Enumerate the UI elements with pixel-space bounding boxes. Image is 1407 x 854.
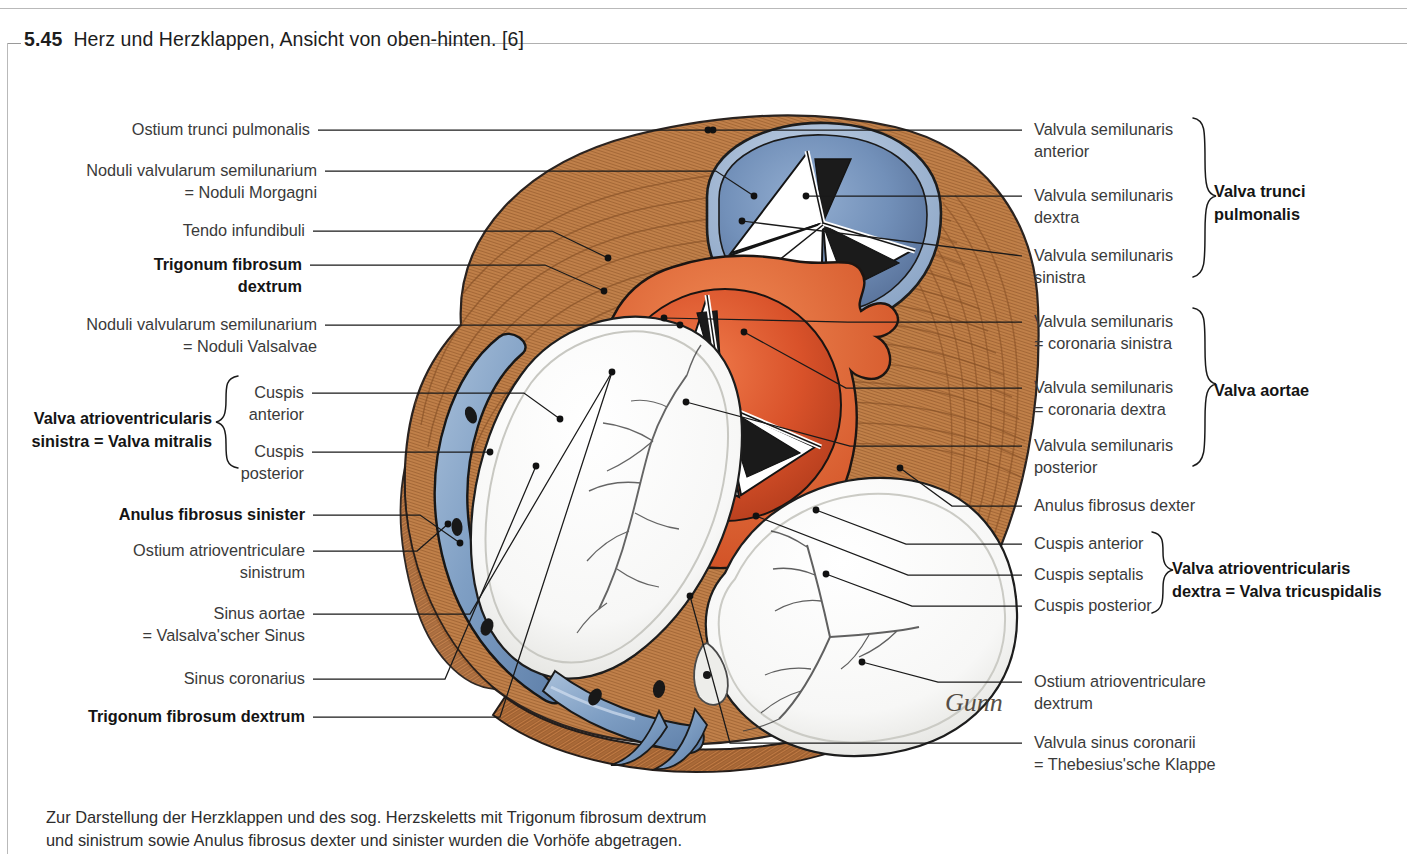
label-ostium-av-dextrum: Ostium atrioventriculare dextrum	[1034, 671, 1206, 714]
heart-valve-illustration: Gunn	[255, 75, 1045, 775]
label-valvula-semilunaris-sinistra: Valvula semilunaris sinistra	[1034, 245, 1173, 288]
label-cuspis-anterior-tricuspid: Cuspis anterior	[1034, 533, 1144, 555]
title-rule	[404, 43, 1407, 44]
label-valvula-coronaria-sinistra: Valvula semilunaris = coronaria sinistra	[1034, 311, 1173, 354]
brace-valva-tricuspidalis	[1152, 532, 1173, 613]
brace-valva-aortae	[1193, 308, 1216, 466]
brace-valva-trunci-pulmonalis	[1193, 118, 1216, 277]
label-ostium-trunci-pulmonalis: Ostium trunci pulmonalis	[0, 119, 310, 141]
label-valvula-coronaria-dextra: Valvula semilunaris = coronaria dextra	[1034, 377, 1173, 420]
group-label-valva-mitralis: Valva atrioventricularis sinistra = Valv…	[0, 407, 212, 453]
label-tendo-infundibuli: Tendo infundibuli	[0, 220, 305, 242]
label-anulus-fibrosus-dexter: Anulus fibrosus dexter	[1034, 495, 1195, 517]
label-valvula-sinus-coronarii: Valvula sinus coronarii = Thebesius'sche…	[1034, 732, 1216, 775]
label-ostium-av-sinistrum: Ostium atrioventriculare sinistrum	[0, 540, 305, 583]
label-sinus-aortae: Sinus aortae = Valsalva'scher Sinus	[0, 603, 305, 646]
figure-title-text: Herz und Herzklappen, Ansicht von oben-h…	[73, 28, 524, 50]
artist-signature: Gunn	[945, 688, 1003, 717]
label-noduli-valsalvae: Noduli valvularum semilunarium = Noduli …	[0, 314, 317, 357]
figure-caption: Zur Darstellung der Herzklappen und des …	[46, 806, 706, 852]
group-label-valva-trunci-pulmonalis: Valva trunci pulmonalis	[1214, 180, 1305, 226]
page-rule-top	[0, 8, 1407, 9]
label-trigonum-fibrosum-dextrum-bottom: Trigonum fibrosum dextrum	[0, 706, 305, 728]
label-trigonum-fibrosum-dextrum-top: Trigonum fibrosum dextrum	[0, 254, 302, 297]
label-valvula-semilunaris-posterior: Valvula semilunaris posterior	[1034, 435, 1173, 478]
label-noduli-morgagni: Noduli valvularum semilunarium = Noduli …	[0, 160, 317, 203]
figure-title: 5.45 Herz und Herzklappen, Ansicht von o…	[24, 28, 524, 51]
group-label-valva-aortae: Valva aortae	[1214, 379, 1309, 402]
figure-page: 5.45 Herz und Herzklappen, Ansicht von o…	[0, 0, 1407, 854]
label-valvula-semilunaris-anterior: Valvula semilunaris anterior	[1034, 119, 1173, 162]
group-label-valva-tricuspidalis: Valva atrioventricularis dextra = Valva …	[1172, 557, 1382, 603]
figure-number: 5.45	[24, 28, 62, 50]
label-cuspis-septalis: Cuspis septalis	[1034, 564, 1144, 586]
page-rule-corner	[7, 43, 21, 44]
label-cuspis-posterior-tricuspid: Cuspis posterior	[1034, 595, 1152, 617]
label-valvula-semilunaris-dextra: Valvula semilunaris dextra	[1034, 185, 1173, 228]
label-sinus-coronarius: Sinus coronarius	[0, 668, 305, 690]
label-anulus-fibrosus-sinister: Anulus fibrosus sinister	[0, 504, 305, 526]
